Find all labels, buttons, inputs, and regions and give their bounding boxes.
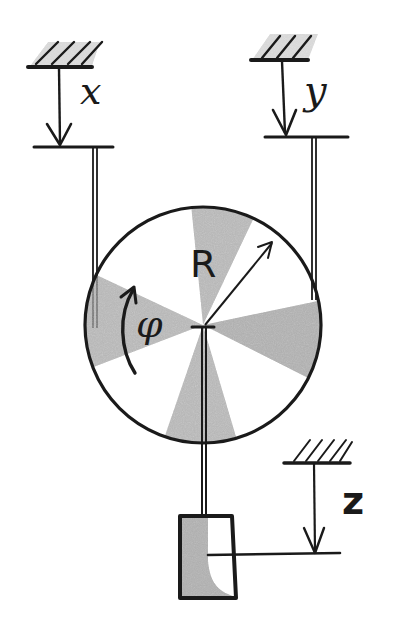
z-arrow [314,464,315,552]
label-y: y [304,70,327,110]
hatch-z [294,440,352,461]
label-x: x [80,72,101,110]
x-arrow [59,68,60,143]
pulley [85,195,322,450]
support-right [251,34,348,137]
pulley-diagram: x y R φ z [0,0,398,636]
label-R: R [190,245,216,283]
z-reference-line [208,553,340,555]
label-phi: φ [136,305,163,343]
label-z: z [342,482,364,520]
y-arrow [282,61,285,133]
support-z [208,440,352,555]
diagram-svg [0,0,398,636]
block [180,516,236,598]
